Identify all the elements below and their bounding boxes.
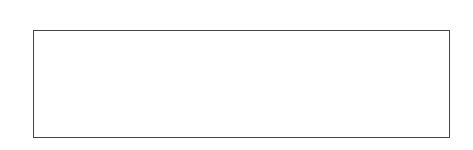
mfcc-heatmap <box>33 30 450 138</box>
